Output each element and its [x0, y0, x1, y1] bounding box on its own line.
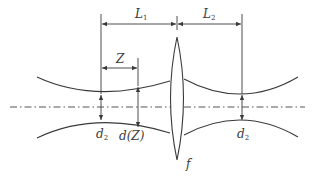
- label-z: Z: [115, 52, 125, 66]
- label-focal-length: f: [185, 157, 193, 171]
- thin-lens: [171, 37, 184, 160]
- label-l2: L2: [202, 7, 215, 22]
- gaussian-beam-lens-diagram: L1 L2 Z d2 d(Z) d2 f: [0, 0, 313, 181]
- diagram-canvas: L1 L2 Z d2 d(Z) d2 f: [0, 0, 313, 181]
- label-l1: L1: [134, 7, 147, 22]
- label-d2-right: d2: [237, 127, 249, 142]
- label-dz: d(Z): [119, 129, 145, 143]
- input-beam-upper-edge: [37, 77, 170, 92]
- output-beam-upper-edge: [184, 77, 298, 94]
- label-d2-left: d2: [96, 127, 108, 142]
